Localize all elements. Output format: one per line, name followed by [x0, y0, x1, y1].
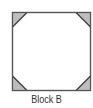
- figure-caption: Block B: [8, 93, 84, 105]
- block-diagram: [0, 0, 93, 108]
- block-square: [13, 13, 91, 91]
